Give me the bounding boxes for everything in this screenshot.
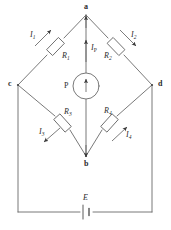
node-label-b: b [84,160,88,168]
battery-symbol [83,205,89,219]
current-label-i3: I3 [39,128,44,136]
resistor-label-r1: R1 [62,52,70,60]
battery-label-e: E [83,194,88,202]
current-label-i1: I1 [30,31,35,39]
current-label-i4-subscript: 4 [129,134,132,140]
current-arrow-i1 [35,30,51,46]
resistor-label-r4: R4 [104,107,112,115]
current-label-i1-subscript: 1 [33,34,36,40]
resistor-label-r2-subscript: 2 [109,55,112,61]
node-label-d: d [158,80,162,88]
resistor-r4-body [101,114,119,132]
current-arrow-i3 [44,128,60,142]
branch-b-d [86,85,152,156]
current-label-ip: IP [91,44,97,52]
galvanometer-label-p: P [64,82,68,90]
current-label-ip-subscript: P [94,47,97,53]
current-label-i2: I2 [131,31,136,39]
node-label-a: a [84,3,88,11]
resistor-label-r3: R3 [64,108,72,116]
resistor-label-r1-subscript: 1 [67,55,70,61]
current-label-i4: I4 [126,131,131,139]
node-label-c: c [8,80,12,88]
current-label-i2-subscript: 2 [134,34,137,40]
current-arrow-i4 [112,127,127,141]
current-label-i3-subscript: 3 [42,131,45,137]
resistor-label-r2: R2 [104,52,112,60]
circuit-diagram-canvas: a c d b R1 R2 R3 R4 P E I1 I2 I3 I4 IP [0,0,171,230]
resistor-label-r3-subscript: 3 [69,111,72,117]
resistor-label-r4-subscript: 4 [109,110,112,116]
branch-c-b [18,85,86,156]
